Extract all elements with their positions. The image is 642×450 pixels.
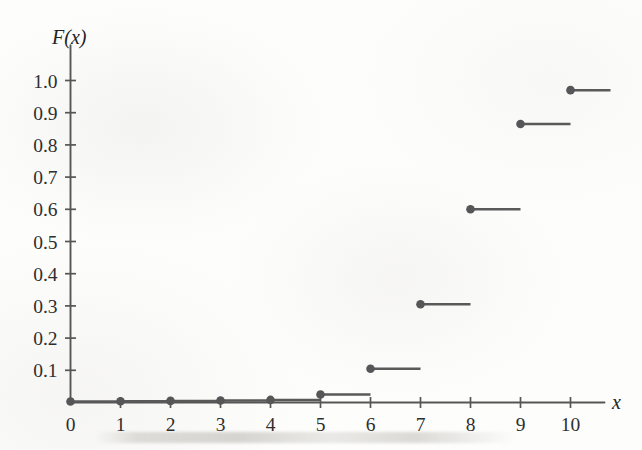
y-tick-label: 0.5 (33, 232, 57, 253)
y-tick-label: 0.3 (33, 296, 57, 317)
x-axis-title: x (611, 391, 621, 413)
x-tick-label: 5 (316, 414, 326, 435)
x-tick-label: 0 (66, 414, 76, 435)
x-tick-label: 1 (116, 414, 126, 435)
step-endpoint-dots (66, 86, 575, 406)
step-endpoint-dot (216, 396, 225, 405)
x-tick-label: 7 (416, 414, 426, 435)
step-endpoint-dot (66, 397, 75, 406)
step-endpoint-dot (566, 86, 575, 95)
step-function-chart: 0.10.20.30.40.50.60.70.80.91.0 012345678… (0, 0, 642, 450)
y-tick-label: 0.7 (33, 167, 58, 188)
y-tick-label: 0.2 (33, 328, 57, 349)
y-tick-label: 0.8 (33, 135, 57, 156)
y-axis-title: F(x) (51, 26, 87, 49)
x-tick-label: 9 (516, 414, 526, 435)
x-tick-label: 3 (216, 414, 226, 435)
y-tick-label: 0.6 (33, 199, 58, 220)
step-endpoint-dot (316, 390, 325, 399)
y-tick-label: 0.1 (33, 360, 57, 381)
x-tick-label: 2 (166, 414, 176, 435)
step-endpoint-dot (166, 397, 175, 406)
x-tick-label: 4 (266, 414, 276, 435)
x-tick-label: 8 (466, 414, 476, 435)
y-axis-tick-labels: 0.10.20.30.40.50.60.70.80.91.0 (33, 71, 58, 382)
x-tick-label: 6 (366, 414, 376, 435)
step-endpoint-dot (416, 300, 425, 309)
y-tick-label: 0.4 (33, 264, 58, 285)
step-segments (71, 90, 611, 401)
x-tick-label: 10 (561, 414, 581, 435)
y-tick-label: 1.0 (33, 71, 57, 92)
y-tick-label: 0.9 (33, 103, 57, 124)
figure-canvas: 0.10.20.30.40.50.60.70.80.91.0 012345678… (0, 0, 642, 450)
step-endpoint-dot (266, 396, 275, 405)
step-endpoint-dot (116, 397, 125, 406)
x-axis-tick-labels: 012345678910 (66, 414, 581, 435)
step-endpoint-dot (466, 205, 475, 214)
step-endpoint-dot (366, 364, 375, 373)
step-endpoint-dot (516, 120, 525, 129)
